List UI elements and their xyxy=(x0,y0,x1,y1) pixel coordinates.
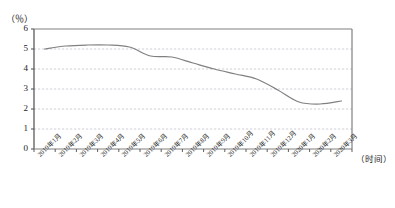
y-axis-tick-label: 3 xyxy=(14,84,28,93)
y-axis-tick-label: 4 xyxy=(14,64,28,73)
y-axis-tick-label: 5 xyxy=(14,44,28,53)
y-axis-tick-label: 0 xyxy=(14,144,28,153)
gridlines xyxy=(34,49,352,129)
y-axis-tick-label: 2 xyxy=(14,104,28,113)
axis-lines xyxy=(34,29,352,149)
data-line-series xyxy=(45,45,342,104)
line-chart: （％） （时间） 0123456 2019年1月2019年2月2019年3月20… xyxy=(0,0,395,208)
y-axis-tick-label: 1 xyxy=(14,124,28,133)
plot-area xyxy=(0,0,395,208)
y-axis-tick-label: 6 xyxy=(14,24,28,33)
